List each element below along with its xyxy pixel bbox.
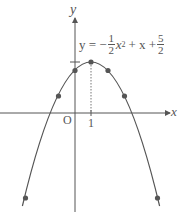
y-axis-label: y [70, 2, 76, 18]
fraction-one-half: 1 2 [108, 33, 115, 56]
frac2-numerator: 5 [158, 33, 164, 44]
origin-label: O [63, 113, 72, 128]
frac2-denominator: 2 [158, 45, 164, 56]
fraction-five-halves: 5 2 [157, 33, 164, 56]
x-tick-1-label: 1 [88, 116, 94, 131]
equation-exponent: 2 [121, 40, 125, 49]
equation-mid: + x + [128, 37, 156, 53]
frac1-numerator: 1 [108, 33, 114, 44]
x-axis-label: x [171, 104, 177, 120]
equation-lhs: y = − [79, 37, 107, 53]
frac1-denominator: 2 [108, 45, 114, 56]
equation-label: y = − 1 2 x2 + x + 5 2 [79, 33, 165, 56]
